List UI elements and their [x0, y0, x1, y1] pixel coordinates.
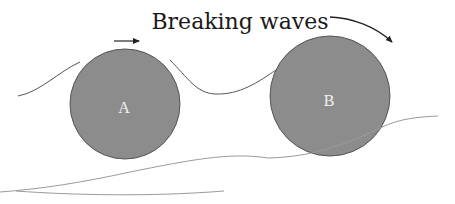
- water-surface-left: [18, 62, 80, 96]
- breaking-waves-diagram: Breaking waves A B: [0, 0, 455, 204]
- sea-floor: [16, 191, 224, 195]
- water-surface-trough: [170, 60, 276, 94]
- stone-a-label: A: [118, 99, 130, 116]
- stone-b-label: B: [324, 92, 335, 109]
- diagram-title: Breaking waves: [151, 9, 328, 34]
